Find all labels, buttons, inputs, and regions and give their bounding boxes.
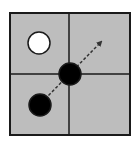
center-black-circle-icon — [59, 63, 81, 85]
lower-left-black-circle-icon — [29, 94, 51, 116]
grid-diagram — [0, 0, 138, 145]
white-circle-icon — [28, 32, 50, 54]
diagram-canvas — [0, 0, 138, 145]
